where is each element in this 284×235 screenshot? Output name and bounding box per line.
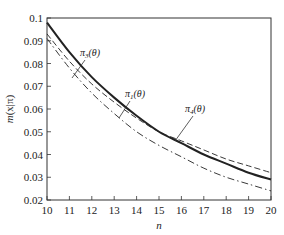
y-tick-label: 0.06 xyxy=(24,103,44,115)
x-tick-label: 12 xyxy=(86,204,97,216)
y-axis-title-m: m xyxy=(3,115,15,123)
y-tick-label: 0.02 xyxy=(24,194,43,206)
y-tick-label: 0.03 xyxy=(24,171,44,183)
leader-pi4 xyxy=(175,116,193,141)
label-pi3: π3(θ) xyxy=(80,47,101,60)
y-tick-label: 0.08 xyxy=(24,58,44,70)
y-tick-label: 0.04 xyxy=(24,149,44,161)
x-tick-label: 19 xyxy=(243,204,255,216)
x-tick-label: 14 xyxy=(131,204,143,216)
plot-frame xyxy=(47,18,271,200)
x-axis-title: n xyxy=(156,219,162,231)
x-tick-label: 10 xyxy=(42,204,54,216)
svg-text:m(x|π): m(x|π) xyxy=(3,94,16,123)
y-axis-title: m(x|π) xyxy=(3,94,16,123)
y-tick-label: 0.1 xyxy=(29,12,43,24)
x-tick-label: 20 xyxy=(266,204,278,216)
x-tick-label: 13 xyxy=(109,204,121,216)
x-tick-label: 18 xyxy=(221,204,233,216)
y-axis-title-rest: (x|π) xyxy=(3,94,16,115)
y-tick-label: 0.07 xyxy=(24,80,44,92)
x-tick-label: 17 xyxy=(198,204,210,216)
x-tick-label: 15 xyxy=(154,204,166,216)
label-pi4: π4(θ) xyxy=(185,103,206,116)
x-tick-label: 11 xyxy=(64,204,75,216)
x-tick-label: 16 xyxy=(176,204,188,216)
y-tick-label: 0.05 xyxy=(24,126,44,138)
y-tick-label: 0.09 xyxy=(24,35,44,47)
label-pi1: π1(θ) xyxy=(125,88,146,101)
x-axis-ticks: 1011121314151617181920 xyxy=(42,196,278,216)
chart-figure: 1011121314151617181920 0.020.030.040.050… xyxy=(0,0,284,235)
